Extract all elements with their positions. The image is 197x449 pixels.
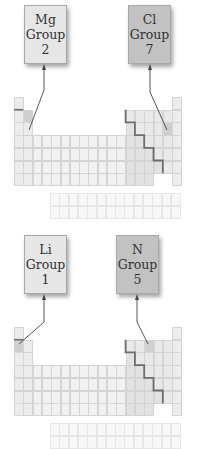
f-block-cell bbox=[171, 206, 181, 219]
element-cell bbox=[144, 135, 154, 148]
group-word: Group bbox=[118, 257, 158, 272]
element-symbol: N bbox=[132, 242, 143, 257]
panel-top: Mg Group 2 Cl Group 7 bbox=[0, 0, 197, 220]
group-number: 2 bbox=[42, 42, 50, 57]
element-cell bbox=[98, 161, 108, 174]
element-cell bbox=[172, 110, 182, 123]
element-cell bbox=[172, 352, 182, 365]
arrow-head-icon bbox=[148, 64, 152, 70]
element-cell bbox=[51, 173, 61, 186]
element-cell bbox=[51, 135, 61, 148]
element-cell bbox=[98, 403, 108, 416]
f-block-cell bbox=[134, 436, 144, 449]
f-block-cell bbox=[87, 206, 97, 219]
element-cell bbox=[14, 327, 24, 340]
element-cell bbox=[144, 122, 154, 135]
arrow-head-icon bbox=[42, 294, 46, 300]
element-cell bbox=[144, 391, 154, 404]
group-word: Group bbox=[130, 27, 170, 42]
element-cell bbox=[144, 173, 154, 186]
group-number: 1 bbox=[42, 272, 50, 287]
f-block-cell bbox=[87, 193, 97, 206]
element-cell bbox=[23, 110, 33, 123]
f-block-cell bbox=[171, 423, 181, 436]
element-cell bbox=[144, 110, 154, 123]
arrow-head-icon bbox=[42, 64, 46, 70]
element-cell bbox=[172, 173, 182, 186]
f-block-cell bbox=[134, 206, 144, 219]
element-symbol: Mg bbox=[35, 12, 56, 27]
label-box-li: Li Group 1 bbox=[24, 235, 67, 294]
element-cell bbox=[172, 365, 182, 378]
group-number: 5 bbox=[134, 272, 142, 287]
element-cell bbox=[98, 173, 108, 186]
element-cell bbox=[172, 378, 182, 391]
element-cell bbox=[144, 403, 154, 416]
element-cell bbox=[51, 161, 61, 174]
element-cell bbox=[172, 135, 182, 148]
element-cell bbox=[23, 122, 33, 135]
label-box-mg: Mg Group 2 bbox=[24, 5, 67, 64]
f-block-cell bbox=[87, 436, 97, 449]
element-cell bbox=[144, 365, 154, 378]
element-cell bbox=[144, 352, 154, 365]
element-cell bbox=[98, 378, 108, 391]
arrow-head-icon bbox=[135, 294, 139, 300]
label-box-n: N Group 5 bbox=[116, 235, 159, 294]
element-cell bbox=[144, 340, 154, 353]
f-block-cell bbox=[134, 423, 144, 436]
element-cell bbox=[51, 378, 61, 391]
f-block-cell bbox=[171, 193, 181, 206]
element-cell bbox=[98, 391, 108, 404]
element-cell bbox=[144, 161, 154, 174]
label-box-cl: Cl Group 7 bbox=[128, 5, 171, 64]
element-cell bbox=[172, 161, 182, 174]
element-cell bbox=[172, 148, 182, 161]
element-symbol: Li bbox=[39, 242, 51, 257]
element-cell bbox=[172, 391, 182, 404]
element-cell bbox=[51, 391, 61, 404]
f-block-cell bbox=[171, 436, 181, 449]
element-cell bbox=[51, 148, 61, 161]
element-symbol: Cl bbox=[143, 12, 157, 27]
element-cell bbox=[172, 327, 182, 340]
element-cell bbox=[144, 378, 154, 391]
element-cell bbox=[98, 365, 108, 378]
group-word: Group bbox=[26, 27, 66, 42]
element-cell bbox=[172, 97, 182, 110]
element-cell bbox=[98, 148, 108, 161]
element-cell bbox=[172, 122, 182, 135]
element-cell bbox=[23, 340, 33, 353]
panel-bottom: Li Group 1 N Group 5 bbox=[0, 230, 197, 437]
element-cell bbox=[172, 403, 182, 416]
pointer-line bbox=[137, 298, 148, 344]
element-cell bbox=[98, 135, 108, 148]
f-block-cell bbox=[87, 423, 97, 436]
element-cell bbox=[51, 365, 61, 378]
group-word: Group bbox=[26, 257, 66, 272]
element-cell bbox=[144, 148, 154, 161]
element-cell bbox=[172, 340, 182, 353]
element-cell bbox=[51, 403, 61, 416]
group-number: 7 bbox=[146, 42, 154, 57]
element-cell bbox=[14, 97, 24, 110]
element-cell bbox=[23, 352, 33, 365]
f-block-cell bbox=[134, 193, 144, 206]
